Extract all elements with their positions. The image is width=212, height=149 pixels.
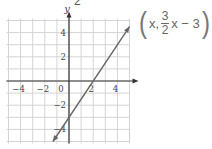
x-tick-label: −4: [12, 84, 25, 94]
line-arrow-up-icon: [124, 27, 129, 33]
ordered-pair-formula: ( x, 3 2 x − 3 ): [138, 8, 211, 38]
x-tick-label: 0: [58, 84, 63, 94]
x-tick-label: −2: [37, 84, 50, 94]
fraction: 3 2: [161, 10, 169, 36]
y-tick-label: −2: [53, 100, 66, 110]
x-tick-label: 4: [113, 84, 118, 94]
numerator: 3: [162, 10, 169, 23]
line-arrow-down-icon: [53, 135, 58, 141]
x-term: x,: [148, 16, 160, 31]
rest-term: x − 3: [170, 16, 201, 31]
y-axis-label: y: [63, 3, 70, 14]
open-paren: (: [139, 8, 147, 38]
denominator: 2: [162, 24, 169, 37]
coordinate-plane: xy−4−202442−2−4: [0, 0, 140, 149]
y-tick-label: 2: [61, 52, 66, 62]
close-paren: ): [202, 8, 210, 38]
x-axis-arrow-icon: [133, 79, 139, 84]
x-tick-label: 2: [88, 84, 93, 94]
y-tick-label: 4: [61, 28, 66, 38]
